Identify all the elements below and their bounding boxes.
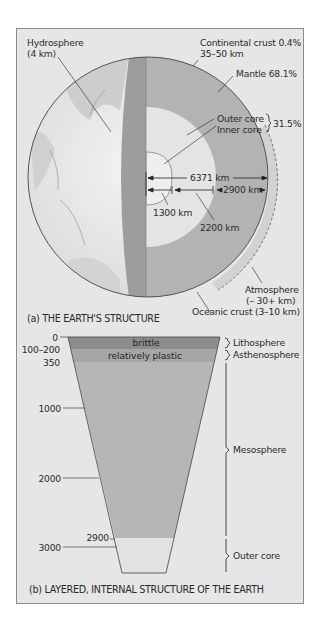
inner-core-radius-label: 1300 km xyxy=(153,207,192,218)
depth-tick-2000: 2000 xyxy=(20,473,61,484)
core-percent-label: 31.5% xyxy=(273,118,301,129)
inner-core-label: Inner core xyxy=(217,124,262,135)
outer-core-layer-label: Outer core xyxy=(233,550,280,561)
depth-tick-1000: 1000 xyxy=(20,403,61,414)
brittle-band-label: brittle xyxy=(100,337,192,349)
depth-tick-100-200: 100–200 xyxy=(10,344,60,355)
oceanic-crust-label: Oceanic crust (3–10 km) xyxy=(192,306,300,317)
outer-core-thickness-label: 2200 km xyxy=(200,222,239,233)
hydrosphere-depth-label: (4 km) xyxy=(27,48,56,59)
radius-label: 6371 km xyxy=(190,172,229,183)
asthenosphere-label: Asthenosphere xyxy=(233,349,299,360)
atmosphere-label: Atmosphere xyxy=(245,284,299,295)
depth-tick-2900: 2900 xyxy=(70,532,109,543)
outer-core-label: Outer core xyxy=(217,113,264,124)
plastic-band-label: relatively plastic xyxy=(95,350,195,362)
depth-tick-0: 0 xyxy=(20,332,58,343)
mantle-label: Mantle 68.1% xyxy=(236,68,297,79)
depth-tick-350: 350 xyxy=(20,357,60,368)
mantle-thickness-label: 2900 km xyxy=(223,184,262,195)
atmosphere-depth-label: (– 30+ km) xyxy=(246,295,295,306)
depth-tick-3000: 3000 xyxy=(20,542,61,553)
continental-crust-label: Continental crust 0.4% xyxy=(200,37,301,48)
layer-braces xyxy=(225,338,230,572)
panel-b-caption: (b) LAYERED, INTERNAL STRUCTURE OF THE E… xyxy=(29,584,264,595)
hydrosphere-label: Hydrosphere xyxy=(27,37,84,48)
lithosphere-label: Lithosphere xyxy=(233,337,285,348)
panel-a-caption: (a) THE EARTH'S STRUCTURE xyxy=(27,313,160,324)
mesosphere-label: Mesosphere xyxy=(233,444,286,455)
continental-crust-depth-label: 35–50 km xyxy=(200,48,244,59)
